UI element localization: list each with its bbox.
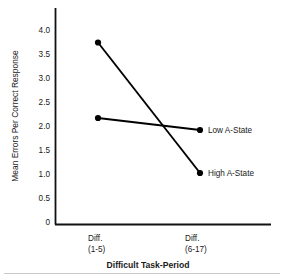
data-point-low-a-state-diff-6-17: [197, 127, 203, 133]
figure-bottom-rule: [4, 273, 280, 274]
x-category-2-line2: (6-17): [185, 245, 207, 254]
series-label-low-a-state: Low A-State: [208, 126, 253, 135]
x-category-2-line1: Diff.: [185, 234, 199, 243]
y-tick-label-2-0: 2.0: [39, 122, 51, 131]
chart-figure: Mean Errors Per Correct Response 4.0 3.5…: [0, 0, 284, 276]
x-category-1-line2: (1-5): [88, 245, 106, 254]
x-category-1-line1: Diff.: [88, 234, 102, 243]
data-point-high-a-state-diff-6-17: [197, 170, 203, 176]
series-line-high-a-state: [98, 43, 200, 174]
y-tick-label-0-5: 0.5: [39, 194, 51, 203]
x-axis-title: Difficult Task-Period: [107, 260, 190, 270]
y-tick-label-1-0: 1.0: [39, 170, 51, 179]
y-tick-label-3-0: 3.0: [39, 74, 51, 83]
y-tick-label-2-5: 2.5: [39, 98, 51, 107]
data-point-high-a-state-diff-1-5: [95, 39, 101, 45]
data-point-low-a-state-diff-1-5: [95, 115, 101, 121]
series-label-high-a-state: High A-State: [208, 169, 254, 178]
y-tick-label-3-5: 3.5: [39, 50, 51, 59]
y-tick-label-4-0: 4.0: [39, 26, 51, 35]
y-tick-label-0: 0: [45, 218, 50, 227]
line-chart-svg: Mean Errors Per Correct Response 4.0 3.5…: [0, 0, 284, 276]
y-tick-label-1-5: 1.5: [39, 146, 51, 155]
y-axis-title: Mean Errors Per Correct Response: [10, 50, 20, 182]
series-line-low-a-state: [98, 118, 200, 130]
